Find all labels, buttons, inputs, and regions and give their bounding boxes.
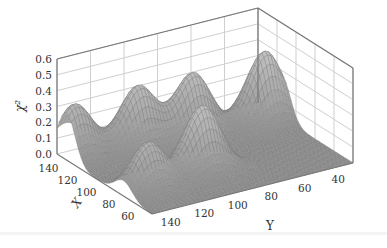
z-tick: 0.6 — [35, 53, 52, 65]
x-tick: 100 — [76, 186, 96, 198]
y-tick: 80 — [265, 190, 278, 202]
y-tick: 60 — [298, 182, 311, 194]
x-tick: 80 — [102, 198, 115, 210]
y-tick: 120 — [194, 207, 214, 219]
z-tick: 0.4 — [35, 85, 52, 97]
surface-plot: 0.00.10.20.30.40.50.6 1401201008060 1401… — [0, 0, 387, 248]
z-axis-label: χ² — [13, 100, 27, 113]
y-axis-label: Y — [265, 219, 275, 233]
x-tick: 60 — [121, 210, 134, 222]
y-tick: 100 — [228, 199, 248, 211]
z-tick: 0.1 — [35, 132, 52, 144]
z-tick: 0.5 — [35, 69, 52, 81]
z-axis-ticks: 0.00.10.20.30.40.50.6 — [35, 53, 52, 160]
x-tick: 140 — [38, 162, 58, 174]
z-tick: 0.0 — [35, 148, 52, 160]
z-tick: 0.2 — [35, 116, 52, 128]
y-tick: 40 — [332, 173, 345, 185]
x-tick: 120 — [57, 174, 77, 186]
divider — [0, 232, 387, 235]
z-tick: 0.3 — [35, 101, 52, 113]
y-tick: 140 — [161, 216, 181, 228]
